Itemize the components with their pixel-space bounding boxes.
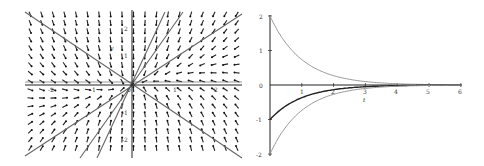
t-tick-label: 1 <box>300 88 304 95</box>
x-tick-label: -2 <box>48 86 54 93</box>
x-tick-label: -1 <box>90 86 96 93</box>
y-tick-label: 1 <box>259 47 263 54</box>
t-tick-label: 5 <box>426 88 430 95</box>
t-tick-label: 6 <box>458 88 462 95</box>
x-tick-label: 2 <box>214 86 218 93</box>
curve-upper <box>270 16 461 85</box>
y-tick-label: 1 <box>124 52 128 59</box>
direction-field <box>28 12 240 151</box>
y-tick-label: -2 <box>256 151 262 158</box>
y-tick-label: 2 <box>259 13 263 20</box>
y-tick-label: -2 <box>122 136 128 143</box>
y-tick-label: 2 <box>124 25 128 32</box>
t-tick-label: 4 <box>394 88 398 95</box>
x-tick-label: 1 <box>173 86 177 93</box>
t-axis-label: t <box>363 96 366 103</box>
figure: -2 -1 0 1 2 2 1 -1 -2 y 1 2 3 4 5 6 t 2 … <box>0 0 484 166</box>
y-tick-label: -1 <box>122 109 128 116</box>
y-tick-label: -1 <box>256 116 262 123</box>
y-tick-label: 0 <box>259 82 263 89</box>
origin-label: 0 <box>127 86 131 93</box>
y-axis-label: y <box>109 44 114 52</box>
